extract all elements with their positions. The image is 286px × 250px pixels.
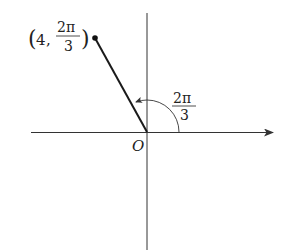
polar-diagram: O 2π 3 ( 4 , 2π 3 )	[0, 0, 286, 250]
svg-text:,: ,	[46, 31, 51, 49]
origin-label: O	[132, 137, 144, 155]
point-marker	[92, 35, 98, 41]
svg-text:2π: 2π	[57, 19, 75, 35]
svg-text:3: 3	[64, 38, 73, 54]
svg-text:2π: 2π	[173, 90, 191, 106]
point-label: ( 4 , 2π 3 )	[28, 19, 90, 54]
svg-text:4: 4	[36, 31, 46, 49]
svg-text:): )	[81, 26, 90, 51]
radius-segment	[95, 38, 147, 132]
svg-text:3: 3	[180, 107, 189, 123]
